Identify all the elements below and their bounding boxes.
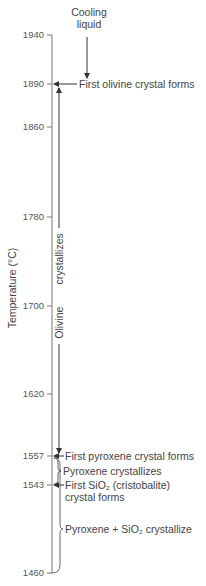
- tick-label-1460: 1460: [8, 568, 44, 578]
- tick-label-1890: 1890: [8, 79, 44, 89]
- first-sio2-label-line1: First SiO₂ (cristobalite): [65, 479, 170, 491]
- first-sio2-label-line2: crystal forms: [65, 491, 125, 503]
- pyroxene-crystallizes-label: Pyroxene crystallizes: [63, 465, 162, 477]
- first-pyroxene-label: First pyroxene crystal forms: [65, 450, 194, 462]
- pyroxene-sio2-brace: [52, 458, 63, 573]
- tick-label-1860: 1860: [8, 122, 44, 132]
- tick-label-1940: 1940: [8, 30, 44, 40]
- axis-title: Temperature (°C): [6, 238, 18, 338]
- tick-label-1543: 1543: [8, 480, 44, 490]
- pyroxene-sio2-label: Pyroxene + SiO₂ crystallize: [65, 523, 192, 535]
- first-olivine-label: First olivine crystal forms: [79, 78, 195, 90]
- cooling-label-line2: liquid: [70, 18, 108, 30]
- tick-label-1780: 1780: [8, 212, 44, 222]
- axis-ticks: [47, 35, 52, 573]
- olivine-crystallizes-label: Olivinecrystallizes: [53, 230, 65, 341]
- cooling-label-line1: Cooling: [70, 6, 108, 18]
- tick-label-1620: 1620: [8, 389, 44, 399]
- crystallizes-word: crystallizes: [53, 233, 65, 284]
- tick-label-1557: 1557: [8, 451, 44, 461]
- olivine-word: Olivine: [53, 307, 65, 339]
